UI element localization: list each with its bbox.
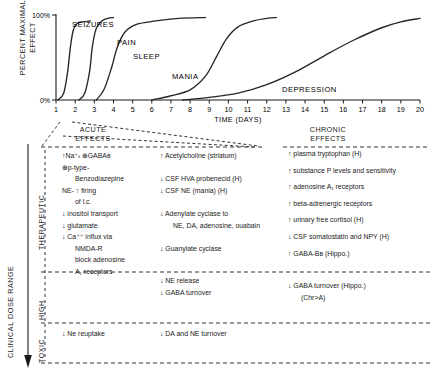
toxic-acute-list: ↓ Ne reuptake <box>62 328 154 340</box>
curve-label-seizures: SEIZURES <box>72 20 114 29</box>
effect-line: NE- ↑ firing <box>62 185 154 197</box>
effect-line: ↓ inositol transport <box>62 208 154 220</box>
effect-time-curves: 1234567891011121314151617181920 100%0% S… <box>0 0 433 125</box>
effect-line: ↑ substance P levels and sensitivity <box>288 165 433 177</box>
high-chronic-list: ↓ GABA turnover (Hippo.)(Chr>A) <box>288 280 433 303</box>
y-tick-label: 100% <box>32 12 50 19</box>
effect-line: ↓ CSF somatostatin and NPY (H) <box>288 231 433 243</box>
x-tick-label: 12 <box>263 105 271 114</box>
effect-line: Benzodiazepine <box>62 173 154 185</box>
band-label-therapeutic: THERAPEUTIC <box>38 195 45 250</box>
effect-line: ↑Na⁺ᵢᵢ ⊕GABAʙ <box>62 150 154 162</box>
band-label-toxic: TOXIC <box>38 339 45 363</box>
x-tick-label: 2 <box>73 105 77 114</box>
effects-panel: ACUTE EFFECTS CHRONIC EFFECTS CLINICAL D… <box>0 120 433 374</box>
x-tick-labels: 1234567891011121314151617181920 <box>54 105 424 114</box>
y-tick-label: 0% <box>40 97 50 104</box>
effect-line: ↓ Adenylate cyclase to <box>160 208 278 220</box>
effect-line: ↓ Ca⁺⁺ influx via <box>62 231 154 243</box>
curve-label-sleep: SLEEP <box>133 52 160 61</box>
effect-line: ⊕p-type- <box>62 162 154 174</box>
x-tick-label: 1 <box>54 105 58 114</box>
x-tick-label: 11 <box>244 105 251 114</box>
spacer <box>288 259 433 264</box>
effect-line: ↑ urinary free cortisol (H) <box>288 214 433 226</box>
curve-labels: SEIZURESPAINSLEEPMANIADEPRESSION <box>72 20 337 94</box>
x-tick-label: 14 <box>301 105 309 114</box>
x-tick-label: 17 <box>359 105 367 114</box>
effect-line <box>160 196 278 208</box>
effect-line: ↑ adenosine A₁ receptors <box>288 181 433 193</box>
effect-line: ↑ plasma tryptophan (H) <box>288 148 433 160</box>
effect-line: ↑ beta-adrenergic receptors <box>288 198 433 210</box>
x-tick-label: 9 <box>207 105 211 114</box>
effect-line: ↓ Guanylate cyclase <box>160 243 278 255</box>
x-tick-label: 13 <box>282 105 290 114</box>
x-tick-label: 15 <box>320 105 328 114</box>
effect-line: A₁ receptors <box>62 266 154 278</box>
acute-effects-header: ACUTE EFFECTS <box>62 125 124 143</box>
effect-line: ↓ Ne reuptake <box>62 328 154 340</box>
diagram-root: PERCENT MAXIMAL EFFECT 12345678910111213… <box>0 0 433 374</box>
x-tick-label: 10 <box>224 105 232 114</box>
therapeutic-middle-list: ↑ Acetylcholine (striatum) ↓ CSF HVA pro… <box>160 150 278 254</box>
x-tick-label: 6 <box>150 105 154 114</box>
x-tick-label: 18 <box>378 105 386 114</box>
x-tick-label: 7 <box>169 105 173 114</box>
x-tick-label: 5 <box>131 105 135 114</box>
chronic-effects-header: CHRONIC EFFECTS <box>297 125 359 143</box>
x-tick-label: 19 <box>397 105 405 114</box>
curve-pain <box>79 18 113 100</box>
effect-line <box>160 231 278 243</box>
effect-line: ↓ CSF HVA probenecid (H) <box>160 173 278 185</box>
dose-range-arrowhead <box>24 355 32 368</box>
curve-paths <box>58 18 420 100</box>
x-tick-label: 8 <box>188 105 192 114</box>
x-tick-label: 3 <box>92 105 96 114</box>
high-middle-list: ↓ NE release↓ GABA turnover <box>160 275 278 298</box>
effect-line: ↓ GABA turnover <box>160 287 278 299</box>
effect-line: ↓ glutamate <box>62 220 154 232</box>
clinical-dose-range-label: CLINICAL DOSE RANGE <box>6 266 15 358</box>
connector-left <box>42 122 60 146</box>
effect-line: block adenosine <box>62 254 154 266</box>
curve-label-pain: PAIN <box>117 38 136 47</box>
x-tick-label: 4 <box>111 105 115 114</box>
effect-line: ↓ GABA turnover (Hippo.) <box>288 280 433 292</box>
curve-label-depression: DEPRESSION <box>282 85 337 94</box>
x-tick-label: 20 <box>416 105 424 114</box>
effect-line: ↓ DA and NE turnover <box>160 328 278 340</box>
effect-line: ↑ GABA-Bʙ (Hippo.) <box>288 248 433 260</box>
effect-line <box>160 162 278 174</box>
chart-region: PERCENT MAXIMAL EFFECT 12345678910111213… <box>0 0 433 125</box>
effect-line: NMDA-R <box>62 243 154 255</box>
effect-line: (Chr>A) <box>288 292 433 304</box>
band-label-high: HIGH <box>38 300 45 320</box>
effect-line: ↑ Acetylcholine (striatum) <box>160 150 278 162</box>
toxic-middle-list: ↓ DA and NE turnover <box>160 328 278 340</box>
therapeutic-chronic-list: ↑ plasma tryptophan (H)↑ substance P lev… <box>288 148 433 264</box>
effect-line: ↓ CSF NE (mania) (H) <box>160 185 278 197</box>
y-tick-labels: 100%0% <box>32 12 50 104</box>
effect-line: of l.c. <box>62 196 154 208</box>
effect-line: ↓ NE release <box>160 275 278 287</box>
x-tick-label: 16 <box>339 105 347 114</box>
curve-label-mania: MANIA <box>172 72 199 81</box>
therapeutic-acute-list: ↑Na⁺ᵢᵢ ⊕GABAʙ⊕p-type-BenzodiazepineNE- ↑… <box>62 150 154 278</box>
effect-line: NE, DA, adenosine, ouabain <box>160 220 278 232</box>
